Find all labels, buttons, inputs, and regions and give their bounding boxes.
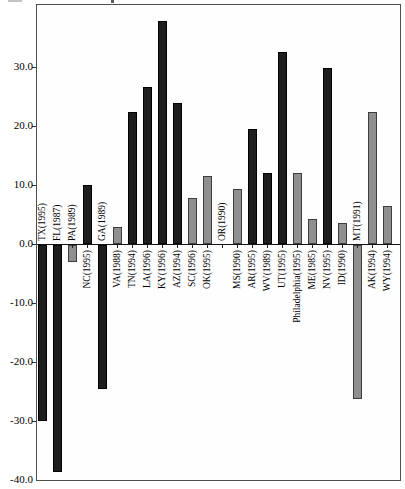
bar-label-GA(1989): GA(1989) bbox=[97, 141, 109, 241]
bar-label-LA(1996): LA(1996) bbox=[142, 250, 154, 350]
bar-MS(1990) bbox=[233, 189, 242, 244]
x-axis-tick bbox=[267, 245, 268, 248]
bar-LA(1996) bbox=[143, 87, 152, 244]
bar-GA(1989) bbox=[98, 245, 107, 389]
y-tick-label: 30.0 bbox=[0, 60, 33, 73]
bar-label-AK(1994): AK(1994) bbox=[367, 250, 379, 350]
x-axis-tick bbox=[372, 245, 373, 248]
zero-axis-line bbox=[37, 244, 400, 245]
bar-KY(1996) bbox=[158, 21, 167, 244]
y-tick-label: -10.0 bbox=[0, 296, 33, 309]
bar-label-Philadelphia(1995): Philadelphia(1995) bbox=[292, 250, 304, 350]
bar-label-ID(1990): ID(1990) bbox=[337, 250, 349, 350]
x-axis-tick bbox=[42, 245, 43, 248]
bar-AR(1995) bbox=[248, 129, 257, 244]
plot-area: TX(1995)FL(1987)PA(1989)NC(1995)GA(1989)… bbox=[36, 4, 401, 481]
x-axis-tick bbox=[342, 245, 343, 248]
bar-label-MT(1991): MT(1991) bbox=[352, 141, 364, 241]
bar-label-WV(1989): WV(1989) bbox=[262, 250, 274, 350]
bar-WV(1989) bbox=[263, 173, 272, 244]
bar-VA(1988) bbox=[113, 227, 122, 244]
x-axis-tick bbox=[327, 245, 328, 248]
x-axis-tick bbox=[102, 245, 103, 248]
x-axis-tick bbox=[387, 245, 388, 248]
bar-NC(1995) bbox=[83, 185, 92, 244]
bar-NV(1995) bbox=[323, 68, 332, 244]
x-axis-tick bbox=[282, 245, 283, 248]
bar-label-VA(1988): VA(1988) bbox=[112, 250, 124, 350]
y-tick-label: -20.0 bbox=[0, 355, 33, 368]
bar-AK(1994) bbox=[368, 112, 377, 244]
y-tick-label: 0.0 bbox=[0, 237, 33, 250]
bar-label-NV(1995): NV(1995) bbox=[322, 250, 334, 350]
bar-SC(1996) bbox=[188, 198, 197, 244]
clipped-text-fragment bbox=[111, 0, 114, 3]
x-axis-tick bbox=[222, 245, 223, 248]
x-axis-tick bbox=[252, 245, 253, 248]
x-axis-tick bbox=[162, 245, 163, 248]
bar-Philadelphia(1995) bbox=[293, 173, 302, 244]
bar-label-OR(1990): OR(1990) bbox=[217, 141, 229, 241]
x-axis-tick bbox=[312, 245, 313, 248]
bar-label-KY(1996): KY(1996) bbox=[157, 250, 169, 350]
bar-label-SC(1996): SC(1996) bbox=[187, 250, 199, 350]
bar-label-OK(1995): OK(1995) bbox=[202, 250, 214, 350]
x-axis-tick bbox=[117, 245, 118, 248]
x-axis-tick bbox=[87, 245, 88, 248]
bar-TX(1995) bbox=[38, 245, 47, 421]
x-axis-tick bbox=[72, 245, 73, 248]
x-axis-tick bbox=[357, 245, 358, 248]
bar-label-TN(1994): TN(1994) bbox=[127, 250, 139, 350]
bar-OK(1995) bbox=[203, 176, 212, 244]
x-axis-tick bbox=[237, 245, 238, 248]
bar-AZ(1994) bbox=[173, 103, 182, 244]
y-tick-label: -40.0 bbox=[0, 473, 33, 486]
bar-chart-figure: TX(1995)FL(1987)PA(1989)NC(1995)GA(1989)… bbox=[0, 0, 405, 489]
bar-label-AR(1995): AR(1995) bbox=[247, 250, 259, 350]
bar-label-WY(1994): WY(1994) bbox=[382, 250, 394, 350]
bar-WY(1994) bbox=[383, 206, 392, 244]
y-tick-label: 10.0 bbox=[0, 178, 33, 191]
bar-label-ME(1985): ME(1985) bbox=[307, 250, 319, 350]
bar-MT(1991) bbox=[353, 245, 362, 399]
clipped-text-fragment bbox=[8, 0, 22, 2]
bar-label-MS(1990): MS(1990) bbox=[232, 250, 244, 350]
x-axis-tick bbox=[147, 245, 148, 248]
x-axis-tick bbox=[177, 245, 178, 248]
x-axis-tick bbox=[192, 245, 193, 248]
bar-TN(1994) bbox=[128, 112, 137, 244]
bar-label-PA(1989): PA(1989) bbox=[67, 141, 79, 241]
bar-ID(1990) bbox=[338, 223, 347, 244]
y-tick-label: -30.0 bbox=[0, 414, 33, 427]
bar-label-NC(1995): NC(1995) bbox=[82, 250, 94, 350]
x-axis-tick bbox=[297, 245, 298, 248]
x-axis-tick bbox=[57, 245, 58, 248]
bar-label-AZ(1994): AZ(1994) bbox=[172, 250, 184, 350]
bar-label-TX(1995): TX(1995) bbox=[37, 141, 49, 241]
bar-UT(1995) bbox=[278, 52, 287, 244]
bar-FL(1987) bbox=[53, 245, 62, 472]
bar-label-FL(1987): FL(1987) bbox=[52, 141, 64, 241]
x-axis-tick bbox=[207, 245, 208, 248]
x-axis-tick bbox=[132, 245, 133, 248]
bar-ME(1985) bbox=[308, 219, 317, 244]
y-tick-label: 20.0 bbox=[0, 119, 33, 132]
bar-label-UT(1995): UT(1995) bbox=[277, 250, 289, 350]
